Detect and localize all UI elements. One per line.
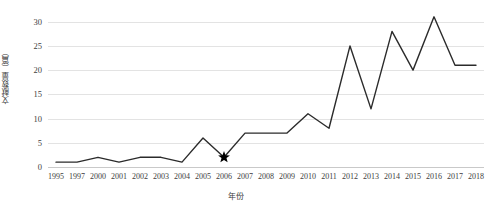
x-tick-label: 2009	[279, 172, 295, 181]
x-tick-label: 2014	[384, 172, 400, 181]
x-tick-label: 2005	[195, 172, 211, 181]
x-axis-title: 年份	[228, 190, 245, 201]
y-tick-label: 0	[22, 162, 42, 172]
gridline-0	[48, 167, 484, 168]
line-chart: 文献数量（篇） 年份 051015202530 1995199720002001…	[0, 0, 490, 207]
x-tick-label: 2007	[237, 172, 253, 181]
x-tick-label: 2003	[153, 172, 169, 181]
y-axis-title: 文献数量（篇）	[2, 48, 16, 104]
x-tick-label: 2013	[363, 172, 379, 181]
x-tick-label: 1995	[48, 172, 64, 181]
y-tick-label: 5	[22, 138, 42, 148]
x-tick-label: 2000	[90, 172, 106, 181]
x-tick-label: 2010	[300, 172, 316, 181]
plot-area	[48, 12, 484, 167]
y-tick-label: 10	[22, 114, 42, 124]
series-line	[56, 17, 476, 162]
y-tick-label: 20	[22, 65, 42, 75]
x-tick-label: 2006	[216, 172, 232, 181]
x-tick-label: 2011	[321, 172, 337, 181]
x-tick-label: 2016	[426, 172, 442, 181]
y-tick-label: 30	[22, 17, 42, 27]
x-tick-label: 2018	[468, 172, 484, 181]
x-tick-label: 2004	[174, 172, 190, 181]
data-series-layer	[48, 12, 484, 167]
x-tick-label: 2001	[111, 172, 127, 181]
x-tick-label: 2012	[342, 172, 358, 181]
x-tick-label: 2015	[405, 172, 421, 181]
x-tick-label: 2008	[258, 172, 274, 181]
x-tick-label: 1997	[69, 172, 85, 181]
x-tick-label: 2017	[447, 172, 463, 181]
x-tick-label: 2002	[132, 172, 148, 181]
y-tick-label: 15	[22, 89, 42, 99]
y-tick-label: 25	[22, 41, 42, 51]
